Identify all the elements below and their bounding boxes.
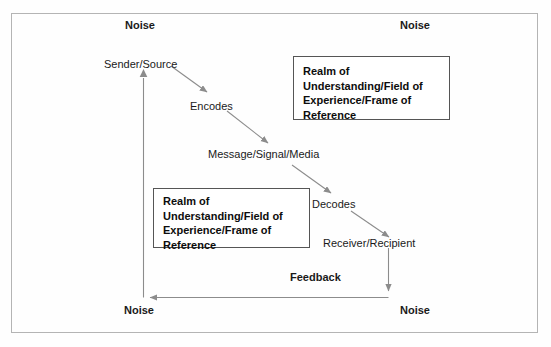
arrow-decodes-to-receiver [351,211,389,237]
chain-label-sender-source: Sender/Source [104,58,177,71]
noise-label-top-left: Noise [125,19,155,32]
realm-box-lower-left: Realm of Understanding/Field of Experien… [153,188,310,248]
realm-box-lower-left-text: Realm of Understanding/Field of Experien… [163,194,283,252]
communication-model-diagram: Noise Noise Noise Noise Sender/Source En… [0,0,551,347]
realm-box-upper-right-text: Realm of Understanding/Field of Experien… [303,64,423,122]
noise-label-top-right: Noise [400,19,430,32]
chain-label-encodes: Encodes [190,100,233,113]
arrow-encodes-to-message [227,111,268,143]
realm-box-upper-right: Realm of Understanding/Field of Experien… [293,56,450,120]
chain-label-message-signal-media: Message/Signal/Media [208,148,319,161]
noise-label-bottom-right: Noise [400,304,430,317]
diagram-connectors [0,0,551,347]
feedback-label: Feedback [290,271,341,284]
noise-label-bottom-left: Noise [124,304,154,317]
chain-label-receiver-recipient: Receiver/Recipient [323,237,415,250]
chain-label-decodes: Decodes [312,198,355,211]
